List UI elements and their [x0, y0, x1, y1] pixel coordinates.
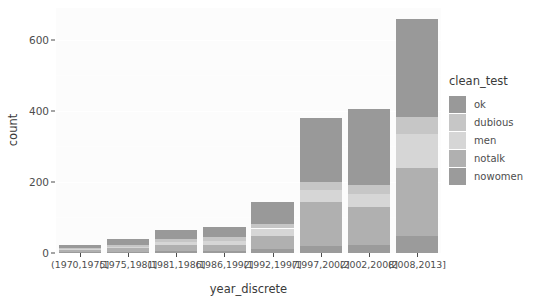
bar-stack[interactable]	[59, 8, 101, 253]
bar-segment[interactable]	[155, 245, 197, 251]
x-tick-label: (2008,2013]	[388, 259, 446, 270]
y-tick-label: 400	[29, 105, 49, 117]
x-axis-title: year_discrete	[56, 282, 441, 296]
legend-swatch-icon	[449, 150, 466, 167]
bar-segment[interactable]	[251, 202, 293, 224]
bar-segment[interactable]	[396, 168, 438, 235]
bar-segment[interactable]	[155, 239, 197, 242]
y-tick-mark	[51, 253, 55, 254]
y-tick-mark	[51, 110, 55, 111]
y-axis-title-label: count	[6, 114, 20, 146]
x-axis-ticks: (1970,1975](1975,1981](1981,1986](1986,1…	[56, 253, 441, 277]
y-tick-label: 200	[29, 176, 49, 188]
y-tick-mark	[51, 39, 55, 40]
legend-item-label: ok	[474, 99, 486, 110]
y-axis-title: count	[2, 0, 24, 260]
legend-title: clean_test	[449, 74, 543, 88]
x-tick-mark	[80, 253, 81, 257]
legend-items: okdubiousmennotalknowomen	[449, 95, 543, 185]
bar-segment[interactable]	[107, 248, 149, 251]
legend-swatch-icon	[449, 132, 466, 149]
bar-segment[interactable]	[155, 230, 197, 239]
bar-segment[interactable]	[203, 245, 245, 251]
bar-segment[interactable]	[396, 134, 438, 168]
x-tick-mark	[224, 253, 225, 257]
bar-segment[interactable]	[59, 248, 101, 249]
bar-segment[interactable]	[203, 237, 245, 240]
bar-segment[interactable]	[348, 185, 390, 194]
bar-segment[interactable]	[396, 19, 438, 118]
legend-item-label: dubious	[474, 117, 513, 128]
legend-swatch-icon	[449, 168, 466, 185]
bar-segment[interactable]	[300, 246, 342, 253]
y-tick-label: 600	[29, 34, 49, 46]
bar-segment[interactable]	[396, 117, 438, 134]
legend-swatch-icon	[449, 96, 466, 113]
bar-segment[interactable]	[300, 202, 342, 246]
x-tick-mark	[321, 253, 322, 257]
bar-segment[interactable]	[348, 207, 390, 245]
bar-stack[interactable]	[300, 8, 342, 253]
bar-segment[interactable]	[348, 245, 390, 253]
bar-segment[interactable]	[107, 247, 149, 249]
x-tick-mark	[273, 253, 274, 257]
legend-item-label: men	[474, 135, 496, 146]
y-axis-ticks: 0200400600	[22, 0, 56, 260]
bar-segment[interactable]	[203, 227, 245, 238]
bar-segment[interactable]	[396, 236, 438, 253]
plot-panel	[56, 8, 441, 253]
bar-stack[interactable]	[348, 8, 390, 253]
bar-segment[interactable]	[59, 250, 101, 252]
bar-segment[interactable]	[107, 239, 149, 245]
bar-segment[interactable]	[107, 245, 149, 246]
legend: clean_test okdubiousmennotalknowomen	[449, 74, 543, 185]
bar-segment[interactable]	[59, 249, 101, 250]
bar-segment[interactable]	[300, 118, 342, 182]
legend-item-nowomen[interactable]: nowomen	[449, 167, 543, 185]
stacked-bar-chart: count 0200400600 (1970,1975](1975,1981](…	[0, 0, 545, 307]
x-tick-mark	[176, 253, 177, 257]
y-tick-label: 0	[42, 247, 49, 259]
bar-segment[interactable]	[59, 245, 101, 248]
legend-item-men[interactable]: men	[449, 131, 543, 149]
x-tick-mark	[128, 253, 129, 257]
x-tick-mark	[417, 253, 418, 257]
bar-stack[interactable]	[203, 8, 245, 253]
bar-segment[interactable]	[203, 241, 245, 245]
x-tick-mark	[369, 253, 370, 257]
bar-segment[interactable]	[251, 229, 293, 236]
bar-stack[interactable]	[251, 8, 293, 253]
bar-segment[interactable]	[348, 109, 390, 185]
bar-stack[interactable]	[396, 8, 438, 253]
bar-segment[interactable]	[155, 242, 197, 246]
bar-stack[interactable]	[107, 8, 149, 253]
bar-segment[interactable]	[348, 194, 390, 207]
bar-segment[interactable]	[300, 182, 342, 190]
legend-item-label: notalk	[474, 153, 505, 164]
bar-segment[interactable]	[251, 224, 293, 228]
legend-item-label: nowomen	[474, 171, 523, 182]
bar-stack[interactable]	[155, 8, 197, 253]
legend-item-dubious[interactable]: dubious	[449, 113, 543, 131]
legend-item-ok[interactable]: ok	[449, 95, 543, 113]
y-tick-mark	[51, 181, 55, 182]
legend-swatch-icon	[449, 114, 466, 131]
bar-segment[interactable]	[251, 236, 293, 249]
legend-item-notalk[interactable]: notalk	[449, 149, 543, 167]
bar-segment[interactable]	[300, 190, 342, 202]
